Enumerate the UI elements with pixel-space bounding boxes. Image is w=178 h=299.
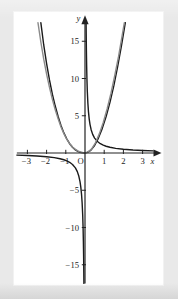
x-tick-label--2: −2 [41,156,50,166]
plot-svg: −3−2−112315105−5−10−15Oxy [14,12,163,285]
axes-layer [17,15,162,283]
y-axis-label: y [76,13,81,23]
y-tick-label-15: 15 [70,36,79,46]
origin-label: O [77,156,83,166]
x-axis-arrow [154,149,162,156]
y-tick-label-10: 10 [70,74,79,84]
y-tick-label--10: −10 [66,223,79,233]
x-axis-label: x [150,156,155,166]
x-tick-label-2: 2 [121,156,125,166]
figure-panel: −3−2−112315105−5−10−15Oxy [14,12,163,285]
x-tick-label--3: −3 [22,156,31,166]
x-tick-label--1: −1 [60,156,69,166]
y-tick-label-5: 5 [75,111,79,121]
y-tick-label--15: −15 [66,260,79,270]
curve-y-1-x-1 [86,23,153,151]
y-axis-arrow [81,15,88,24]
axis-labels-layer: −3−2−112315105−5−10−15Oxy [22,13,155,269]
x-tick-label-1: 1 [102,156,106,166]
y-tick-label--5: −5 [70,185,79,195]
x-tick-label-3: 3 [140,156,144,166]
